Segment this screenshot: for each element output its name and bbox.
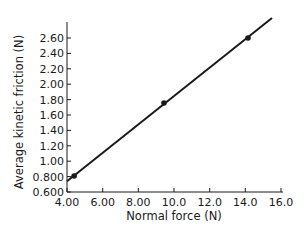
data-point: [161, 100, 167, 106]
data-point: [71, 173, 77, 179]
x-axis-title: Normal force (N): [126, 209, 221, 223]
x-tick-labels: 4.00 6.00 8.00 10.0 12.0 14.0 16.0: [55, 196, 294, 209]
x-tick-label: 8.00: [126, 196, 151, 209]
y-tick-label: 1.20: [40, 140, 65, 153]
x-tick-label: 12.0: [197, 196, 222, 209]
y-tick-label: 1.40: [40, 124, 65, 137]
y-ticks: [67, 38, 71, 192]
x-tick-label: 16.0: [269, 196, 294, 209]
y-tick-labels: 0.600 0.800 1.00 1.20 1.40 1.60 1.80 2.0…: [33, 32, 65, 199]
y-tick-label: 2.40: [40, 47, 65, 60]
best-fit-line: [67, 18, 272, 181]
chart-canvas: 0.600 0.800 1.00 1.20 1.40 1.60 1.80 2.0…: [0, 0, 307, 235]
x-tick-label: 4.00: [55, 196, 80, 209]
y-tick-label: 2.60: [40, 32, 65, 45]
x-tick-label: 10.0: [162, 196, 187, 209]
x-tick-label: 6.00: [90, 196, 115, 209]
y-axis-title: Average kinetic friction (N): [12, 35, 26, 189]
y-tick-label: 0.800: [33, 171, 65, 184]
y-tick-label: 2.00: [40, 78, 65, 91]
y-tick-label: 1.80: [40, 94, 65, 107]
y-tick-label: 1.00: [40, 155, 65, 168]
y-tick-label: 2.20: [40, 63, 65, 76]
data-point: [245, 35, 251, 41]
x-ticks: [67, 188, 281, 192]
x-tick-label: 14.0: [233, 196, 258, 209]
y-tick-label: 1.60: [40, 109, 65, 122]
